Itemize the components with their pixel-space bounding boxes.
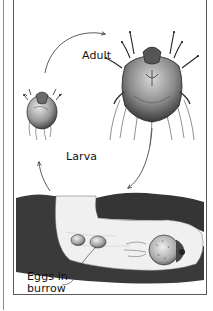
label-eggs-line2: burrow [27, 283, 68, 295]
arrow-burrow-to-larva [39, 162, 50, 191]
burrowing-mite [149, 235, 179, 265]
egg-2 [90, 236, 106, 248]
label-larva: Larva [66, 151, 97, 163]
arrow-adult-to-burrow [128, 128, 152, 188]
label-eggs-in-burrow: Eggs in burrow [27, 271, 68, 295]
larva-mite-illustration [23, 89, 62, 140]
egg-1 [71, 235, 85, 246]
label-adult: Adult [82, 50, 111, 62]
life-cycle-illustration [0, 0, 213, 311]
